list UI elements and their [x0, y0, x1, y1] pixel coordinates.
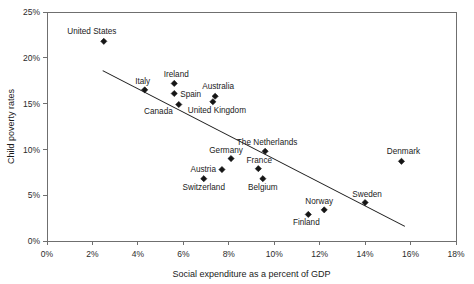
x-tick-label: 16%: [402, 249, 419, 259]
trend-line-group: [103, 71, 405, 227]
data-point-marker[interactable]: [171, 80, 177, 86]
x-tick-label: 12%: [311, 249, 328, 259]
data-point-label: Italy: [135, 77, 151, 86]
x-tick-label: 10%: [266, 249, 283, 259]
x-tick-label: 6%: [177, 249, 190, 259]
x-tick-label: 18%: [447, 249, 464, 259]
y-tick-label: 25%: [23, 7, 40, 17]
y-tick-label: 5%: [28, 190, 41, 200]
data-point-marker[interactable]: [260, 176, 266, 182]
x-tick-label: 14%: [357, 249, 374, 259]
data-point-marker[interactable]: [142, 87, 148, 93]
data-points-group: United StatesItalyIrelandSpainCanadaAust…: [67, 27, 421, 227]
data-point-label: Ireland: [164, 70, 189, 79]
data-point-marker[interactable]: [201, 176, 207, 182]
data-point-marker[interactable]: [171, 90, 177, 96]
trend-line: [103, 71, 405, 227]
data-point-label: France: [247, 156, 273, 165]
y-tick-label: 15%: [23, 99, 40, 109]
axes-group: [47, 12, 456, 241]
data-point-label: United States: [67, 27, 116, 36]
data-point-label: Sweden: [352, 190, 382, 199]
y-tick-label: 10%: [23, 145, 40, 155]
y-tick-label: 20%: [23, 53, 40, 63]
data-point-label: Belgium: [248, 183, 278, 192]
data-point-marker[interactable]: [101, 38, 107, 44]
data-point-label: Germany: [209, 146, 244, 155]
y-axis-ticks: 0%5%10%15%20%25%: [23, 7, 47, 246]
data-point-marker[interactable]: [176, 101, 182, 107]
data-point-label: Norway: [305, 197, 334, 206]
data-point-label: The Netherlands: [237, 138, 298, 147]
data-point-marker[interactable]: [219, 166, 225, 172]
data-point-marker[interactable]: [398, 158, 404, 164]
data-point-label: Denmark: [387, 147, 421, 156]
y-tick-label: 0%: [28, 236, 41, 246]
x-tick-label: 2%: [86, 249, 99, 259]
chart-figure: 0%2%4%6%8%10%12%14%16%18% 0%5%10%15%20%2…: [0, 0, 474, 284]
data-point-label: Canada: [144, 107, 173, 116]
x-tick-label: 4%: [132, 249, 145, 259]
y-axis-title: Child poverty rates: [6, 88, 16, 164]
x-tick-label: 8%: [223, 249, 236, 259]
data-point-label: Spain: [180, 90, 201, 99]
data-point-marker[interactable]: [228, 155, 234, 161]
x-axis-ticks: 0%2%4%6%8%10%12%14%16%18%: [41, 241, 465, 259]
data-point-label: Switzerland: [183, 183, 226, 192]
x-axis-title: Social expenditure as a percent of GDP: [172, 269, 330, 279]
data-point-label: Australia: [202, 82, 234, 91]
data-point-label: Austria: [190, 165, 216, 174]
data-point-marker[interactable]: [255, 166, 261, 172]
data-point-label: Finland: [293, 218, 320, 227]
data-point-marker[interactable]: [305, 211, 311, 217]
x-tick-label: 0%: [41, 249, 54, 259]
scatter-plot: 0%2%4%6%8%10%12%14%16%18% 0%5%10%15%20%2…: [0, 0, 474, 284]
data-point-marker[interactable]: [321, 207, 327, 213]
data-point-label: United Kingdom: [188, 106, 246, 115]
